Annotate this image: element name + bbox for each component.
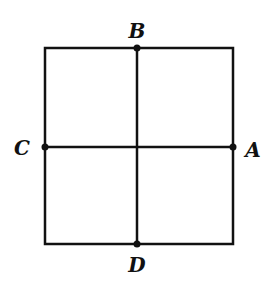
point-D xyxy=(134,241,141,248)
point-A xyxy=(230,144,237,151)
label-A: A xyxy=(245,140,261,160)
label-B: B xyxy=(129,21,146,41)
point-B xyxy=(134,45,141,52)
diagram-canvas xyxy=(0,0,275,287)
point-C xyxy=(42,144,49,151)
label-C: C xyxy=(14,138,30,158)
label-D: D xyxy=(128,255,145,275)
